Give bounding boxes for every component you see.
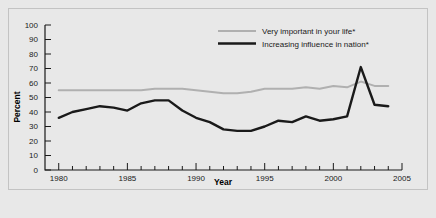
y-axis-tick-marks (45, 25, 51, 170)
chart-legend: Very important in your life*Increasing i… (218, 27, 369, 49)
y-tick-label: 50 (29, 93, 38, 102)
y-axis-tick-labels: 0102030405060708090100 (25, 21, 39, 175)
data-series-group (59, 67, 389, 131)
x-tick-label: 1990 (187, 174, 205, 183)
y-tick-label: 80 (29, 50, 38, 59)
legend-label: Very important in your life* (262, 27, 355, 36)
y-tick-label: 0 (34, 166, 39, 175)
y-tick-label: 10 (29, 151, 38, 160)
x-tick-label: 1995 (256, 174, 274, 183)
series-line-increasing-influence (59, 67, 389, 131)
legend-label: Increasing influence in nation* (262, 40, 369, 49)
y-axis-title: Percent (12, 91, 22, 122)
x-tick-label: 2005 (393, 174, 411, 183)
x-axis-title: Year (214, 177, 233, 187)
chart-container: Percent 0102030405060708090100 198019851… (0, 0, 436, 218)
chart-plot-svg: Percent 0102030405060708090100 198019851… (0, 0, 436, 218)
x-tick-label: 2000 (324, 174, 342, 183)
series-line-very-important (59, 82, 389, 94)
x-tick-label: 1980 (50, 174, 68, 183)
y-tick-label: 70 (29, 64, 38, 73)
y-tick-label: 100 (25, 21, 39, 30)
y-tick-label: 20 (29, 137, 38, 146)
x-axis-tick-marks (59, 163, 402, 170)
y-tick-label: 90 (29, 35, 38, 44)
x-tick-label: 1985 (118, 174, 136, 183)
y-tick-label: 30 (29, 122, 38, 131)
y-tick-label: 60 (29, 79, 38, 88)
y-tick-label: 40 (29, 108, 38, 117)
